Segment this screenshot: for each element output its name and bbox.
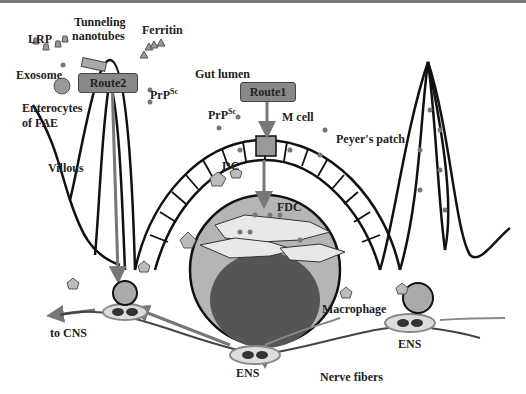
- prpsc-text: PrP: [208, 108, 228, 122]
- route2-box: Route2: [78, 73, 138, 93]
- label-enterocytes: Enterocytes: [22, 102, 82, 115]
- label-peyers-patch: Peyer's patch: [336, 133, 405, 146]
- prpsc-sup: Sc: [170, 87, 178, 96]
- label-prpsc-center: PrPSc: [208, 105, 236, 122]
- ferritin-molecules: [140, 39, 165, 58]
- label-exosome: Exosome: [16, 69, 62, 82]
- label-tunneling: Tunneling: [74, 16, 126, 29]
- tunneling-nanotube: [81, 58, 106, 72]
- label-to-cns: to CNS: [50, 327, 87, 340]
- diagram-canvas: Route2 Route1 Tunneling nanotubes LRP Fe…: [0, 0, 526, 394]
- label-dc: DC: [222, 160, 239, 173]
- label-gut-lumen: Gut lumen: [195, 68, 250, 81]
- label-ens-right: ENS: [398, 338, 421, 351]
- m-cell: [256, 136, 276, 156]
- label-nerve-fibers: Nerve fibers: [320, 371, 383, 384]
- right-villous: [380, 62, 510, 270]
- prpsc-sup: Sc: [228, 107, 236, 116]
- label-of-fae: of FAE: [22, 117, 58, 130]
- label-nanotubes: nanotubes: [72, 30, 125, 43]
- route1-box: Route1: [240, 82, 296, 102]
- label-prpsc-left: PrPSc: [150, 85, 178, 102]
- prpsc-text: PrP: [150, 88, 170, 102]
- label-villous: Villous: [48, 162, 84, 175]
- label-macrophage: Macrophage: [322, 303, 386, 316]
- label-ferritin: Ferritin: [142, 24, 183, 37]
- label-lrp: LRP: [28, 33, 52, 46]
- label-m-cell: M cell: [282, 111, 314, 124]
- label-ens-center: ENS: [236, 367, 259, 380]
- label-fdc: FDC: [277, 201, 302, 214]
